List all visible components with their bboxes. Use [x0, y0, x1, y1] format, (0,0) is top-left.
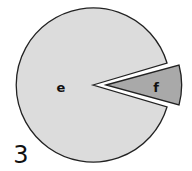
slice-label-e: e: [57, 80, 66, 95]
slice-label-f: f: [153, 80, 159, 95]
pie-diagram: e f 3: [0, 0, 192, 171]
figure-number: 3: [13, 141, 28, 169]
